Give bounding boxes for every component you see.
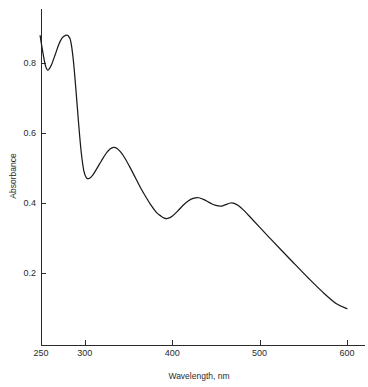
x-tick-label-250: 250	[33, 348, 48, 358]
axes	[41, 9, 365, 345]
y-tick-label-0.8: 0.8	[23, 58, 36, 68]
x-tick-label-600: 600	[339, 348, 354, 358]
y-axis-title: Absorbance	[8, 153, 18, 199]
y-tick-label-0.4: 0.4	[23, 198, 36, 208]
y-tick-label-0.6: 0.6	[23, 128, 36, 138]
x-tick-label-400: 400	[165, 348, 180, 358]
x-tick-label-500: 500	[252, 348, 267, 358]
axis-ticks	[41, 64, 348, 346]
spectrum-plot: 250300400500600 0.20.40.60.8 Wavelength,…	[0, 0, 368, 387]
absorbance-spectrum-figure: 250300400500600 0.20.40.60.8 Wavelength,…	[0, 0, 368, 387]
y-tick-label-0.2: 0.2	[23, 268, 36, 278]
x-tick-labels: 250300400500600	[33, 348, 354, 358]
data-curve	[40, 35, 347, 309]
x-tick-label-300: 300	[77, 348, 92, 358]
series-absorbance-spectrum	[40, 35, 347, 309]
x-axis-title: Wavelength, nm	[168, 371, 229, 381]
y-tick-labels: 0.20.40.60.8	[23, 58, 36, 278]
